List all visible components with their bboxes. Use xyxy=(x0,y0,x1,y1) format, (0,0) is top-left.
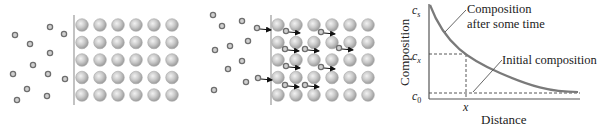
diffusing-solute-atom xyxy=(318,29,323,34)
host-atom xyxy=(362,19,375,32)
host-atom xyxy=(112,54,125,67)
solute-atom xyxy=(211,87,216,92)
diffusing-solute-atom xyxy=(318,64,323,69)
host-atom xyxy=(166,36,179,49)
diffusing-solute-atom xyxy=(254,25,259,30)
composition-profile-chart: cs cx c0 x Composition Distance Composit… xyxy=(397,2,598,127)
host-atom xyxy=(290,54,303,67)
host-atom xyxy=(166,71,179,84)
host-atom xyxy=(148,71,161,84)
diffusing-solute-atom xyxy=(255,75,260,80)
solute-atom xyxy=(245,38,250,43)
panel-before-diffusion xyxy=(10,15,178,105)
host-atom xyxy=(76,71,89,84)
solute-atom xyxy=(24,86,29,91)
host-atom xyxy=(272,36,285,49)
host-atom xyxy=(94,71,107,84)
diffusion-diagram: cs cx c0 x Composition Distance Composit… xyxy=(0,0,610,129)
host-atom xyxy=(344,36,357,49)
diffusing-solute-atom xyxy=(283,63,288,68)
solute-atom xyxy=(47,24,52,29)
solute-atom xyxy=(30,62,35,67)
solute-atom xyxy=(10,71,15,76)
host-atom xyxy=(94,19,107,32)
diffusion-arrow-icon xyxy=(308,50,319,51)
solute-atom xyxy=(239,58,244,63)
diffusion-arrow-icon xyxy=(288,86,299,87)
annotation-leader-initial xyxy=(473,60,502,92)
host-atom xyxy=(308,71,321,84)
host-atom xyxy=(94,36,107,49)
host-atom xyxy=(130,54,143,67)
diffusion-arrow-icon xyxy=(324,68,335,69)
diffusion-arrow-icon xyxy=(261,79,272,80)
cx-label: cx xyxy=(412,49,421,65)
host-atom xyxy=(130,36,143,49)
host-atom xyxy=(76,36,89,49)
host-atom xyxy=(326,71,339,84)
host-atom xyxy=(166,54,179,67)
host-atom xyxy=(76,54,89,67)
diffusing-solute-atom xyxy=(282,82,287,87)
host-atom xyxy=(76,89,89,102)
host-atom xyxy=(362,71,375,84)
diffusion-arrow-icon xyxy=(289,32,300,33)
diffusion-figure: cs cx c0 x Composition Distance Composit… xyxy=(0,0,610,129)
host-atom xyxy=(326,89,339,102)
panel-during-diffusion xyxy=(210,12,374,105)
c0-label: c0 xyxy=(412,89,421,105)
host-atom xyxy=(326,19,339,32)
diffusing-solute-atom xyxy=(336,45,341,50)
annotation-initial: Initial composition xyxy=(502,53,598,67)
annotation-curve-line2: after some time xyxy=(467,17,545,31)
annotation-curve-line1: Composition xyxy=(467,2,532,16)
host-atom xyxy=(362,36,375,49)
host-atom xyxy=(272,19,285,32)
host-atom xyxy=(130,19,143,32)
solute-atom xyxy=(227,43,232,48)
host-atom xyxy=(148,36,161,49)
host-atom xyxy=(166,19,179,32)
host-atom xyxy=(166,89,179,102)
host-atom xyxy=(290,71,303,84)
solute-atom xyxy=(239,18,244,23)
diffusion-arrow-icon xyxy=(342,49,353,50)
x-tick-label: x xyxy=(462,100,469,114)
host-atom xyxy=(344,71,357,84)
host-atom xyxy=(130,89,143,102)
host-atom xyxy=(290,89,303,102)
solute-atom xyxy=(225,66,230,71)
host-atom xyxy=(290,36,303,49)
solute-atom xyxy=(45,71,50,76)
host-atom xyxy=(148,89,161,102)
diffusing-solute-atom xyxy=(282,46,287,51)
solute-atom xyxy=(14,97,19,102)
diffusing-solute-atom xyxy=(283,28,288,33)
annotation-leader-curve xyxy=(445,10,466,32)
host-atom xyxy=(272,71,285,84)
host-atom xyxy=(344,19,357,32)
solute-atom xyxy=(243,79,248,84)
host-atom xyxy=(290,19,303,32)
solute-atom xyxy=(47,50,52,55)
host-atom xyxy=(308,89,321,102)
host-atom xyxy=(308,54,321,67)
solute-atom xyxy=(210,12,215,17)
host-atom xyxy=(362,54,375,67)
host-atom xyxy=(130,71,143,84)
host-atom xyxy=(148,19,161,32)
host-atom xyxy=(76,19,89,32)
host-atom xyxy=(344,89,357,102)
solute-atom xyxy=(61,31,66,36)
host-atom xyxy=(308,36,321,49)
diffusion-arrow-icon xyxy=(260,29,271,30)
host-atom xyxy=(112,89,125,102)
host-atom xyxy=(112,36,125,49)
host-atom xyxy=(148,54,161,67)
diffusion-arrow-icon xyxy=(289,67,300,68)
host-atom xyxy=(112,71,125,84)
solute-atom xyxy=(12,32,17,37)
solute-atom xyxy=(44,93,49,98)
host-atom xyxy=(326,54,339,67)
host-atom xyxy=(272,54,285,67)
